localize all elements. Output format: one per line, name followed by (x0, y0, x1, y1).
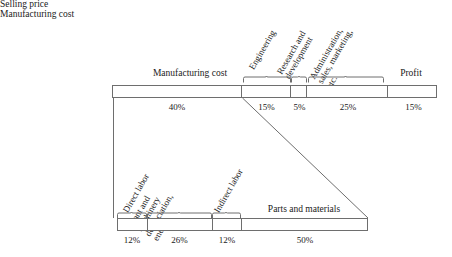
bar-segment-parts-and-materials (242, 219, 367, 230)
bar-manufacturing-cost (117, 218, 368, 231)
pct-parts-and-materials: 50% (242, 236, 368, 245)
bottom-group-heading-parts-and-materials: Parts and materials (240, 205, 368, 215)
bar-segment-indirect-labor (213, 219, 243, 230)
pct-plant-machinery-depreciation-energy: 26% (147, 236, 212, 245)
pct-direct-labor: 12% (117, 236, 147, 245)
cost-breakdown-diagram: Manufacturing cost Profit Engineering Re… (0, 0, 452, 257)
pct-indirect-labor: 12% (212, 236, 242, 245)
bar-segment-direct-labor (118, 219, 148, 230)
bar-segment-plant-machinery-depreciation-energy (148, 219, 213, 230)
